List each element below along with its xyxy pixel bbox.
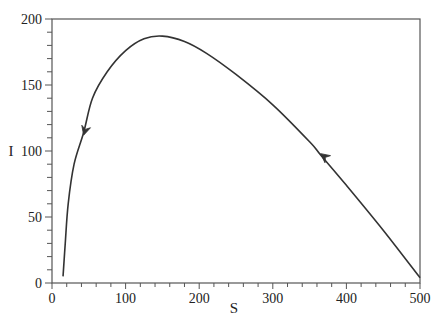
y-axis-ticks: 050100150200 <box>21 12 52 291</box>
y-tick-label: 150 <box>21 78 42 93</box>
x-axis-label: S <box>230 300 238 316</box>
x-tick-label: 300 <box>262 291 283 306</box>
x-tick-label: 400 <box>336 291 357 306</box>
x-tick-label: 200 <box>189 291 210 306</box>
chart: 0100200300400500 050100150200 S I <box>0 0 440 329</box>
x-tick-label: 500 <box>410 291 431 306</box>
arrow-up-left-icon <box>318 150 331 163</box>
y-axis-label: I <box>9 143 14 159</box>
y-tick-label: 0 <box>35 276 42 291</box>
y-tick-label: 200 <box>21 12 42 27</box>
y-tick-label: 50 <box>28 210 42 225</box>
x-tick-label: 0 <box>49 291 56 306</box>
y-tick-label: 100 <box>21 144 42 159</box>
trajectory-curve <box>63 36 420 278</box>
x-tick-label: 100 <box>115 291 136 306</box>
x-axis-ticks: 0100200300400500 <box>49 283 431 306</box>
direction-arrows <box>79 125 330 162</box>
plot-frame <box>52 19 420 283</box>
